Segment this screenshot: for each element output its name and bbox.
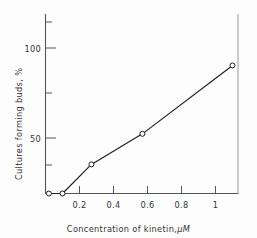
- x-tick-label-1: 1: [213, 200, 219, 210]
- series-line: [49, 65, 233, 193]
- x-tick-label-0.8: 0.8: [175, 200, 189, 210]
- data-point-marker: [140, 131, 145, 136]
- data-point-marker: [46, 191, 51, 196]
- x-axis-ticks: [80, 186, 216, 194]
- y-axis-title: Cultures forming buds, %: [14, 68, 24, 180]
- y-tick-label-50: 50: [30, 134, 41, 144]
- x-axis-unit: μM: [177, 224, 190, 234]
- line-chart-plot: 100 50 0.2 0.4 0.6 0.8 1: [0, 0, 257, 238]
- x-tick-label-0.4: 0.4: [107, 200, 121, 210]
- data-point-marker: [60, 191, 65, 196]
- x-axis-title-text: Concentration of kinetin,: [67, 224, 177, 234]
- x-axis-title: Concentration of kinetin,μM: [0, 224, 257, 234]
- data-point-marker: [89, 162, 94, 167]
- axis-spines: [45, 14, 239, 194]
- y-tick-label-100: 100: [24, 44, 41, 54]
- chart-figure: 100 50 0.2 0.4 0.6 0.8 1 Concentration o…: [0, 0, 257, 238]
- data-point-marker: [230, 63, 235, 68]
- x-tick-label-0.6: 0.6: [141, 200, 155, 210]
- data-series-kinetin-response: [46, 63, 235, 196]
- y-axis-ticks: [46, 22, 57, 165]
- series-markers: [46, 63, 235, 196]
- x-tick-label-0.2: 0.2: [73, 200, 87, 210]
